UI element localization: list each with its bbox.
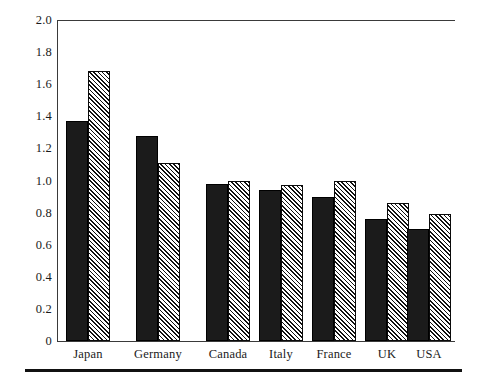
bar-germany-series-1	[136, 136, 158, 341]
x-axis-category-label-usa: USA	[384, 347, 474, 361]
y-axis-tick-label: 2.0	[4, 14, 52, 26]
bar-france-series-2	[334, 181, 356, 342]
y-axis-tick-label: 0.6	[4, 239, 52, 251]
bar-usa-series-1	[407, 229, 429, 341]
bar-japan-series-2	[88, 71, 110, 341]
bar-chart-figure: 2.01.81.61.41.21.00.80.60.40.20 JapanGer…	[0, 0, 487, 379]
bar-usa-series-2	[429, 214, 451, 341]
bar-uk-series-2	[387, 203, 409, 341]
bar-germany-series-2	[158, 163, 180, 341]
y-axis-tick-label: 1.4	[4, 110, 52, 122]
y-axis-tick-label: 1.6	[4, 78, 52, 90]
y-axis-tick-label: 1.0	[4, 175, 52, 187]
bar-france-series-1	[312, 197, 334, 341]
y-axis-tick-label: 0.2	[4, 303, 52, 315]
bar-canada-series-1	[206, 184, 228, 341]
y-axis-tick-label: 0.4	[4, 271, 52, 283]
bottom-horizontal-rule	[25, 369, 462, 372]
y-axis-tick-label: 0	[4, 335, 52, 347]
bar-italy-series-1	[259, 190, 281, 341]
y-axis-tick-label: 1.2	[4, 142, 52, 154]
bar-japan-series-1	[66, 121, 88, 341]
y-axis-tick-labels: 2.01.81.61.41.21.00.80.60.40.20	[0, 0, 52, 379]
plot-area	[57, 20, 455, 341]
bar-italy-series-2	[281, 185, 303, 341]
bar-canada-series-2	[228, 181, 250, 342]
y-axis-tick-label: 1.8	[4, 46, 52, 58]
y-axis-tick-label: 0.8	[4, 207, 52, 219]
bar-uk-series-1	[365, 219, 387, 341]
axis-bottom-line	[57, 341, 455, 342]
